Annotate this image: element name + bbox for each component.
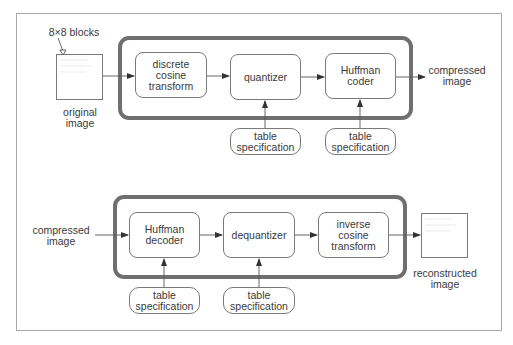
- connector-arrows: [0, 0, 513, 345]
- blocks-pointer-line: [58, 38, 63, 51]
- blocks-pointer-arrowhead-icon: [60, 50, 66, 55]
